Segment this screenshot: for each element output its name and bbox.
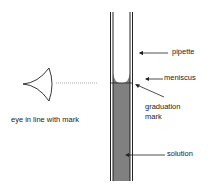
solution-label: solution	[167, 150, 193, 159]
pipette-label: pipette	[172, 48, 195, 57]
pipette-diagram	[0, 0, 219, 187]
graduation-mark-label-line1: graduation	[145, 103, 180, 112]
meniscus-curve	[113, 73, 130, 83]
meniscus-label: meniscus	[164, 74, 196, 83]
solution-fill	[113, 83, 130, 181]
eye-label: eye in line with mark	[11, 116, 79, 125]
graduation-mark-arrow	[137, 85, 164, 97]
graduation-mark-label-line2: mark	[145, 113, 162, 122]
eye-icon	[23, 68, 52, 101]
